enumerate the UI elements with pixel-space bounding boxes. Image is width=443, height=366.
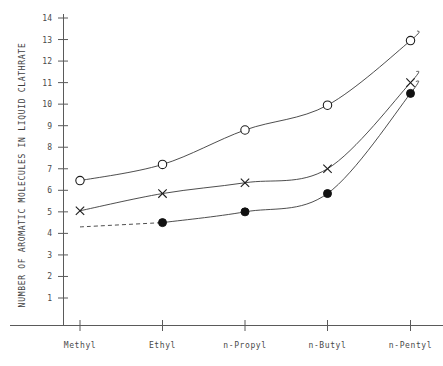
- data-point-open-circle: [76, 176, 84, 184]
- liquid-clathrate-line-chart: NUMBER OF AROMATIC MOLECULES IN LIQUID C…: [0, 0, 443, 366]
- axes: [10, 14, 443, 326]
- data-point-filled-circle: [241, 208, 249, 216]
- y-axis-title-label: NUMBER OF AROMATIC MOLECULES IN LIQUID C…: [18, 43, 27, 308]
- series-markers: [76, 36, 415, 226]
- chart-page: NUMBER OF AROMATIC MOLECULES IN LIQUID C…: [0, 0, 443, 366]
- y-tick-label: 14: [42, 14, 52, 23]
- y-tick-label: 9: [47, 122, 52, 131]
- y-tick-label: 6: [47, 186, 52, 195]
- y-tick-label: 11: [42, 79, 52, 88]
- y-tick-label: 12: [42, 57, 52, 66]
- y-tick-label: 2: [47, 272, 52, 281]
- y-tick-label: 4: [47, 229, 52, 238]
- y-axis-title: NUMBER OF AROMATIC MOLECULES IN LIQUID C…: [18, 43, 27, 308]
- x-axis-ticks: MethylEthyln-Propyln-Butyln-Pentyl: [64, 320, 432, 350]
- data-point-open-circle: [158, 160, 166, 168]
- data-point-open-circle: [323, 101, 331, 109]
- x-tick-label: n-Butyl: [309, 341, 347, 350]
- data-point-filled-circle: [324, 190, 332, 198]
- y-tick-label: 8: [47, 143, 52, 152]
- x-tick-label: n-Propyl: [223, 341, 266, 350]
- data-point-open-circle: [241, 126, 249, 134]
- data-point-filled-circle: [407, 89, 415, 97]
- y-tick-label: 13: [42, 36, 52, 45]
- y-tick-label: 5: [47, 208, 52, 217]
- y-tick-label: 1: [47, 294, 52, 303]
- x-tick-label: Ethyl: [149, 341, 176, 350]
- x-tick-label: Methyl: [64, 341, 97, 350]
- data-point-filled-circle: [159, 219, 167, 227]
- series-curve-dashed-segment: [80, 223, 163, 227]
- series-curve: [80, 31, 419, 181]
- y-tick-label: 3: [47, 251, 52, 260]
- series-curve: [163, 81, 419, 223]
- data-point-open-circle: [406, 36, 414, 44]
- series-curve: [80, 71, 419, 211]
- y-tick-label: 7: [47, 165, 52, 174]
- x-tick-label: n-Pentyl: [389, 341, 432, 350]
- y-tick-label: 10: [42, 100, 52, 109]
- y-axis-ticks: 1234567891011121314: [42, 14, 68, 303]
